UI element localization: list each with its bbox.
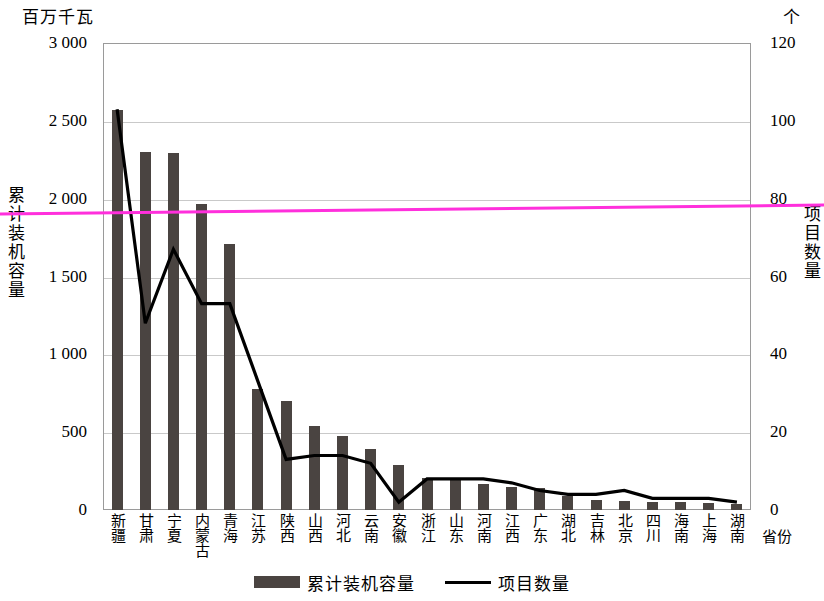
x-axis-label: 新疆	[109, 513, 124, 543]
x-axis-label: 湖北	[560, 513, 575, 543]
right-axis-ticks: 020406080100120	[760, 0, 824, 601]
right-tick-label: 40	[770, 344, 787, 364]
x-axis-label: 云南	[363, 513, 378, 543]
x-axis-label: 河南	[475, 513, 490, 543]
x-axis-label: 吉林	[588, 513, 603, 543]
left-tick-label: 3 000	[49, 33, 87, 53]
x-axis-label: 陕西	[278, 513, 293, 543]
bar-swatch-icon	[254, 576, 300, 588]
legend-label-capacity: 累计装机容量	[307, 570, 415, 595]
left-tick-label: 2 500	[49, 111, 87, 131]
chart-container: 百万千瓦 个 累计装机容量 项目数量 省份 05001 0001 5002 00…	[0, 0, 824, 601]
x-axis-label: 安徽	[391, 513, 406, 543]
x-axis-label: 北京	[616, 513, 631, 543]
x-axis-label: 宁夏	[165, 513, 180, 543]
x-axis-label: 山东	[447, 513, 462, 543]
left-tick-label: 500	[62, 422, 88, 442]
right-tick-label: 20	[770, 422, 787, 442]
project-count-line	[103, 43, 751, 510]
x-axis-label: 海南	[673, 513, 688, 543]
x-axis-label: 四川	[644, 513, 659, 543]
x-axis-label: 河北	[334, 513, 349, 543]
left-tick-label: 2 000	[49, 189, 87, 209]
left-tick-label: 1 500	[49, 267, 87, 287]
x-axis-label: 甘肃	[137, 513, 152, 543]
legend-item-projects: 项目数量	[445, 570, 570, 595]
right-tick-label: 0	[770, 500, 779, 520]
line-series-layer	[103, 43, 751, 510]
left-tick-label: 0	[79, 500, 88, 520]
right-tick-label: 100	[770, 111, 796, 131]
x-axis-label: 内蒙古	[194, 513, 209, 558]
x-axis-label: 江苏	[250, 513, 265, 543]
x-axis-label: 湖南	[729, 513, 744, 543]
legend-label-projects: 项目数量	[498, 570, 570, 595]
x-axis-label: 山西	[306, 513, 321, 543]
x-axis-label: 江西	[504, 513, 519, 543]
legend-item-capacity: 累计装机容量	[254, 570, 415, 595]
x-axis-label: 上海	[701, 513, 716, 543]
left-tick-label: 1 000	[49, 344, 87, 364]
x-axis-label: 广东	[532, 513, 547, 543]
right-tick-label: 120	[770, 33, 796, 53]
right-tick-label: 80	[770, 189, 787, 209]
x-axis-label: 青海	[222, 513, 237, 543]
left-axis-ticks: 05001 0001 5002 0002 5003 000	[0, 0, 95, 601]
line-swatch-icon	[445, 581, 491, 584]
x-axis-label: 浙江	[419, 513, 434, 543]
chart-legend: 累计装机容量 项目数量	[0, 568, 824, 596]
right-tick-label: 60	[770, 267, 787, 287]
